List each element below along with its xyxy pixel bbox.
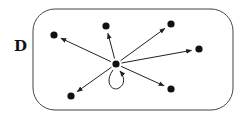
- edges: [61, 28, 192, 91]
- region-boundary: [33, 9, 233, 110]
- node-n6: [67, 92, 74, 99]
- star-graph-diagram: [0, 0, 246, 115]
- node-n2: [102, 22, 109, 29]
- node-n1: [50, 31, 57, 38]
- self-loop-edge: [109, 70, 124, 89]
- edge-c-n5: [121, 66, 164, 86]
- node-n5: [167, 85, 174, 92]
- edge-c-n1: [61, 38, 111, 61]
- edge-c-n2: [108, 33, 115, 58]
- node-n3: [167, 20, 174, 27]
- edge-c-n6: [77, 67, 111, 91]
- node-n4: [195, 45, 202, 52]
- center-node: [112, 60, 119, 67]
- nodes: [50, 20, 202, 99]
